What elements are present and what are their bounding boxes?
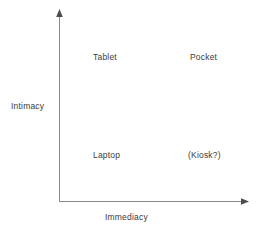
diagram-canvas: Tablet Pocket Laptop (Kiosk?) Intimacy I… bbox=[0, 0, 262, 234]
axes-group bbox=[0, 0, 262, 234]
quadrant-label-pocket: Pocket bbox=[190, 52, 217, 63]
x-axis-label: Immediacy bbox=[105, 212, 148, 223]
x-axis-arrowhead-icon bbox=[241, 198, 249, 205]
quadrant-label-kiosk: (Kiosk?) bbox=[188, 150, 221, 161]
quadrant-label-tablet: Tablet bbox=[93, 52, 117, 63]
y-axis-label: Intimacy bbox=[11, 101, 44, 112]
quadrant-label-laptop: Laptop bbox=[93, 150, 120, 161]
y-axis-arrowhead-icon bbox=[56, 9, 63, 17]
